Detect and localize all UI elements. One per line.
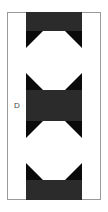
octagon-cell-1 <box>26 31 82 90</box>
figure-label: D <box>14 101 20 111</box>
octagon-shape-2 <box>26 121 82 180</box>
octagon-shape-1 <box>26 31 82 90</box>
octagon-cell-2 <box>26 121 82 180</box>
